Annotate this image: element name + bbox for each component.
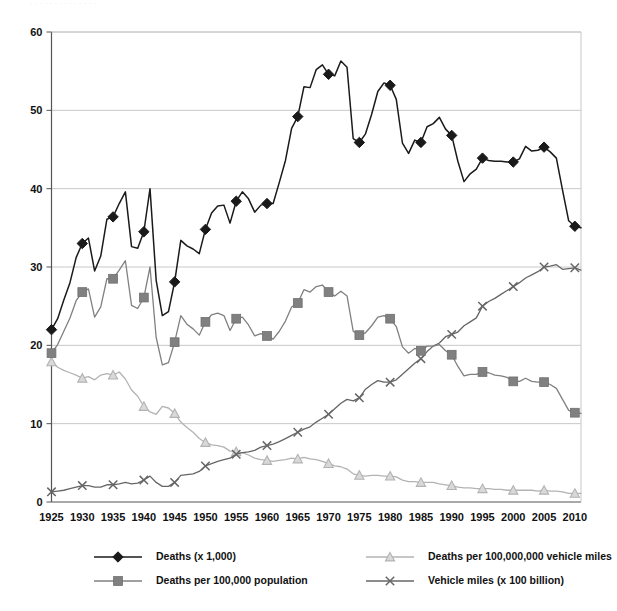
marker-square xyxy=(509,377,518,386)
marker-diamond xyxy=(139,227,149,237)
marker-triangle xyxy=(201,438,210,447)
series-line-deaths xyxy=(52,61,582,330)
marker-square xyxy=(47,349,56,358)
y-tick-label-0: 0 xyxy=(36,496,42,508)
marker-diamond xyxy=(46,324,56,334)
y-axis-tick-labels: 0102030405060 xyxy=(30,26,51,508)
x-tick-label-1995: 1995 xyxy=(470,511,494,523)
y-tick-label-50: 50 xyxy=(30,104,42,116)
marker-x xyxy=(509,282,517,290)
marker-x xyxy=(263,441,271,449)
x-axis-tick-labels: 1925193019351940194519501955196019651970… xyxy=(39,511,587,523)
marker-square xyxy=(447,350,456,359)
legend-label: Deaths per 100,000,000 vehicle miles xyxy=(428,550,612,562)
marker-x xyxy=(417,354,425,362)
marker-triangle xyxy=(324,459,333,468)
legend-entry-1[interactable]: Deaths per 100,000,000 vehicle miles xyxy=(366,550,612,562)
marker-diamond xyxy=(108,212,118,222)
y-tick-label-60: 60 xyxy=(30,26,42,38)
x-tick-label-2000: 2000 xyxy=(501,511,525,523)
legend-entry-3[interactable]: Vehicle miles (x 100 billion) xyxy=(366,574,564,586)
x-tick-label-2005: 2005 xyxy=(532,511,556,523)
chart-legend: Deaths (x 1,000)Deaths per 100,000,000 v… xyxy=(94,550,612,586)
marker-triangle xyxy=(539,486,548,495)
x-tick-label-2010: 2010 xyxy=(563,511,587,523)
series-line-deaths_per_vehicle_miles xyxy=(52,362,582,494)
marker-square xyxy=(139,293,148,302)
x-tick-label-1990: 1990 xyxy=(439,511,463,523)
marker-x xyxy=(294,428,302,436)
x-tick-label-1925: 1925 xyxy=(39,511,63,523)
x-tick-label-1985: 1985 xyxy=(409,511,433,523)
marker-x xyxy=(324,410,332,418)
marker-diamond xyxy=(508,157,518,167)
chart-root: · · · · · · · · · · · · · · 010203040506… xyxy=(0,0,617,611)
marker-diamond xyxy=(262,198,272,208)
series-markers-deaths_per_vehicle_miles xyxy=(47,357,580,497)
legend-entry-2[interactable]: Deaths per 100,000 population xyxy=(94,574,308,586)
marker-diamond xyxy=(477,153,487,163)
marker-square xyxy=(232,314,241,323)
marker-square xyxy=(114,577,123,586)
marker-x xyxy=(355,394,363,402)
marker-x xyxy=(201,462,209,470)
x-tick-label-1940: 1940 xyxy=(132,511,156,523)
x-tick-label-1930: 1930 xyxy=(70,511,94,523)
x-tick-label-1960: 1960 xyxy=(255,511,279,523)
marker-diamond xyxy=(354,137,364,147)
x-tick-label-1955: 1955 xyxy=(224,511,248,523)
marker-x xyxy=(448,330,456,338)
marker-triangle xyxy=(47,357,56,366)
x-tick-label-1935: 1935 xyxy=(101,511,125,523)
series-deaths_per_vehicle_miles xyxy=(47,357,581,497)
marker-diamond xyxy=(385,80,395,90)
legend-label: Deaths per 100,000 population xyxy=(156,574,308,586)
x-tick-label-1965: 1965 xyxy=(286,511,310,523)
marker-triangle xyxy=(139,402,148,411)
legend-label: Vehicle miles (x 100 billion) xyxy=(428,574,564,586)
x-tick-label-1970: 1970 xyxy=(316,511,340,523)
legend-label: Deaths (x 1,000) xyxy=(156,550,236,562)
marker-diamond xyxy=(169,277,179,287)
y-tick-label-20: 20 xyxy=(30,339,42,351)
marker-square xyxy=(570,408,579,417)
y-tick-label-10: 10 xyxy=(30,418,42,430)
marker-square xyxy=(386,314,395,323)
legend-entry-0[interactable]: Deaths (x 1,000) xyxy=(94,550,236,562)
marker-diamond xyxy=(416,137,426,147)
marker-square xyxy=(201,317,210,326)
gridlines xyxy=(52,32,582,424)
marker-diamond xyxy=(293,111,303,121)
marker-square xyxy=(109,274,118,283)
marker-x xyxy=(140,476,148,484)
marker-x xyxy=(478,302,486,310)
marker-square xyxy=(478,368,487,377)
traffic-fatalities-line-chart: 0102030405060 19251930193519401945195019… xyxy=(0,0,617,611)
marker-diamond xyxy=(200,224,210,234)
marker-square xyxy=(263,332,272,341)
y-tick-label-30: 30 xyxy=(30,261,42,273)
data-series-layer xyxy=(46,61,581,497)
marker-square xyxy=(170,338,179,347)
marker-diamond xyxy=(113,552,123,562)
series-deaths_per_population xyxy=(47,261,581,417)
marker-square xyxy=(78,288,87,297)
x-tick-label-1945: 1945 xyxy=(162,511,186,523)
marker-diamond xyxy=(323,69,333,79)
marker-square xyxy=(540,378,549,387)
marker-square xyxy=(355,331,364,340)
series-markers-vehicle_miles xyxy=(47,263,579,496)
series-line-deaths_per_population xyxy=(52,261,582,414)
x-tick-label-1950: 1950 xyxy=(193,511,217,523)
series-vehicle_miles xyxy=(47,263,581,496)
marker-diamond xyxy=(231,196,241,206)
x-tick-label-1975: 1975 xyxy=(347,511,371,523)
y-tick-label-40: 40 xyxy=(30,183,42,195)
x-tick-label-1980: 1980 xyxy=(378,511,402,523)
marker-square xyxy=(324,288,333,297)
marker-x xyxy=(170,478,178,486)
marker-square xyxy=(417,346,426,355)
marker-square xyxy=(293,299,302,308)
